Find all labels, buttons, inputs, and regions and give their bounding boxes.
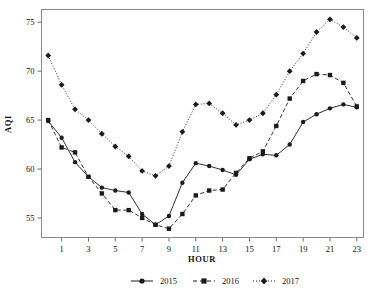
data-point-2016: [127, 208, 131, 212]
y-tick-label: 70: [26, 66, 35, 76]
data-point-2015: [59, 135, 63, 139]
data-point-2015: [180, 181, 184, 185]
data-point-2015: [301, 120, 305, 124]
data-point-2015: [113, 188, 117, 192]
data-point-2016: [167, 226, 171, 230]
data-point-2015: [328, 106, 332, 110]
data-point-2016: [59, 145, 63, 149]
data-point-2016: [220, 187, 224, 191]
data-point-2016: [261, 149, 265, 153]
data-point-2016: [100, 191, 104, 195]
legend-marker-square-icon: [201, 278, 206, 283]
x-tick-label: 7: [140, 244, 144, 254]
legend-label-2016: 2016: [222, 276, 239, 286]
x-tick-label: 3: [86, 244, 90, 254]
data-point-2016: [113, 208, 117, 212]
data-point-2015: [194, 161, 198, 165]
data-point-2016: [314, 72, 318, 76]
x-tick-label: 11: [192, 244, 200, 254]
x-tick-label: 5: [113, 244, 117, 254]
data-point-2015: [73, 160, 77, 164]
x-axis-title: HOUR: [188, 254, 216, 264]
data-point-2016: [328, 73, 332, 77]
data-point-2016: [46, 118, 50, 122]
x-tick-label: 9: [167, 244, 171, 254]
data-point-2016: [247, 156, 251, 160]
legend-label-2015: 2015: [160, 276, 177, 286]
data-point-2016: [180, 212, 184, 216]
data-point-2016: [234, 171, 238, 175]
x-tick-label: 15: [245, 244, 254, 254]
data-point-2016: [301, 79, 305, 83]
data-point-2015: [288, 142, 292, 146]
y-tick-label: 55: [26, 213, 35, 223]
data-point-2015: [167, 214, 171, 218]
y-axis-title: AQI: [3, 115, 13, 133]
data-point-2016: [153, 223, 157, 227]
x-tick-label: 13: [218, 244, 227, 254]
x-tick-label: 21: [326, 244, 335, 254]
y-tick-label: 60: [26, 164, 35, 174]
data-point-2015: [140, 212, 144, 216]
data-point-2015: [341, 102, 345, 106]
x-tick-label: 19: [299, 244, 308, 254]
legend-marker-circle-icon: [139, 278, 144, 283]
y-tick-label: 75: [26, 17, 35, 27]
data-point-2016: [207, 188, 211, 192]
aqi-by-hour-line-chart: 5560657075 1357911131517192123 HOUR AQI …: [0, 0, 387, 297]
x-tick-label: 23: [353, 244, 362, 254]
data-point-2016: [73, 150, 77, 154]
data-point-2016: [86, 175, 90, 179]
legend-label-2017: 2017: [282, 276, 299, 286]
data-point-2016: [140, 216, 144, 220]
data-point-2016: [288, 96, 292, 100]
data-point-2015: [274, 153, 278, 157]
x-tick-label: 1: [60, 244, 64, 254]
data-point-2015: [220, 168, 224, 172]
x-tick-label: 17: [272, 244, 281, 254]
data-point-2016: [341, 81, 345, 85]
data-point-2016: [274, 124, 278, 128]
data-point-2016: [355, 104, 359, 108]
data-point-2015: [207, 164, 211, 168]
chart-figure: 5560657075 1357911131517192123 HOUR AQI …: [0, 0, 387, 297]
y-tick-label: 65: [26, 115, 35, 125]
data-point-2015: [314, 112, 318, 116]
data-point-2015: [127, 190, 131, 194]
data-point-2016: [194, 193, 198, 197]
data-point-2015: [100, 185, 104, 189]
